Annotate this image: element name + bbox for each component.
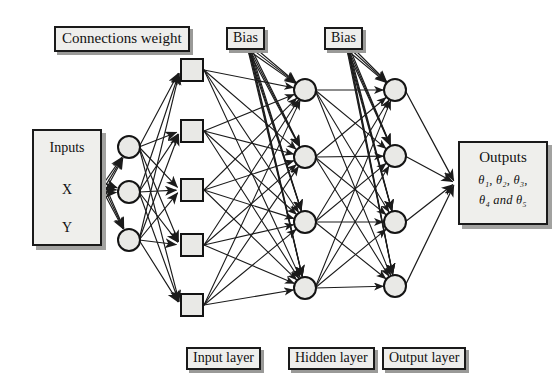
edge-input-2-weight-4: [139, 240, 178, 302]
output-node-2: [384, 145, 406, 167]
edge-weight-4-hidden-1: [204, 167, 298, 305]
edge-output-1-outputs-panel: [405, 156, 452, 182]
weight-node-2: [181, 120, 203, 142]
input-node-3: [118, 229, 140, 251]
diagram-canvas: Connections weight Bias Bias Input layer…: [0, 0, 560, 391]
edge-inputs-to-input-node-0: [104, 158, 122, 183]
input-variable-y: Y: [62, 220, 72, 236]
outputs-symbols-line-1: θ₁, θ₂, θ₃,: [478, 173, 527, 188]
input-variable-x: X: [62, 182, 72, 198]
edge-input-1-weight-0: [139, 74, 179, 192]
output-node-1: [384, 79, 406, 101]
outputs-symbols-line-2: θ₄ and θ₅: [479, 193, 527, 208]
bias-left-text: Bias: [233, 31, 258, 45]
edge-weight-0-hidden-2: [204, 70, 298, 212]
weight-node-3: [181, 179, 203, 201]
outputs-panel: Outputs θ₁, θ₂, θ₃, θ₄ and θ₅: [458, 141, 548, 225]
edge-hidden-1-output-1: [315, 156, 383, 157]
input-layer-text: Input layer: [193, 351, 254, 365]
weight-node-1: [181, 59, 203, 81]
outputs-heading: Outputs: [479, 149, 527, 166]
edge-input-0-weight-0: [139, 74, 178, 147]
edge-hidden-0-output-2: [315, 90, 389, 212]
edge-weight-3-hidden-0: [204, 100, 298, 245]
input-node-1: [118, 136, 140, 158]
input-layer-label: Input layer: [186, 347, 261, 370]
edge-output-0-outputs-panel: [405, 90, 454, 180]
hidden-node-3: [294, 211, 316, 233]
nodes-group: [118, 59, 406, 316]
hidden-layer-text: Hidden layer: [295, 351, 368, 365]
weight-node-4: [181, 234, 203, 256]
hidden-layer-label: Hidden layer: [288, 347, 375, 370]
hidden-node-1: [294, 79, 316, 101]
hidden-node-4: [294, 277, 316, 299]
edge-hidden-3-output-2: [315, 230, 386, 288]
hidden-node-2: [294, 146, 316, 168]
edge-input-1-weight-1: [139, 134, 178, 192]
edge-output-3-outputs-panel: [405, 186, 454, 286]
output-layer-label: Output layer: [382, 347, 466, 370]
edge-hidden-3-output-3: [315, 286, 383, 288]
connections-weight-text: Connections weight: [62, 31, 182, 46]
input-node-2: [118, 181, 140, 203]
output-node-3: [384, 211, 406, 233]
connections-weight-label: Connections weight: [54, 26, 190, 52]
inputs-panel: Inputs X Y: [32, 129, 102, 246]
edge-weight-4-hidden-3: [204, 290, 293, 305]
output-node-4: [384, 275, 406, 297]
edge-weight-1-hidden-2: [204, 131, 296, 214]
output-layer-text: Output layer: [389, 351, 459, 365]
inputs-heading: Inputs: [50, 140, 85, 156]
bias-label-left: Bias: [226, 27, 265, 50]
weight-node-5: [181, 294, 203, 316]
bias-label-right: Bias: [324, 27, 363, 50]
bias-right-text: Bias: [331, 31, 356, 45]
edge-hidden-3-output-1: [315, 166, 389, 288]
edge-input-0-weight-3: [139, 147, 178, 241]
edge-input-1-weight-4: [139, 192, 179, 301]
edge-weight-4-hidden-2: [204, 230, 296, 305]
